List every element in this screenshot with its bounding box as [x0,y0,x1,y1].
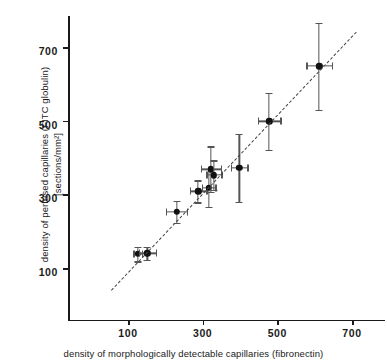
error-bar-cap [195,180,202,181]
error-bar-cap [247,164,248,171]
error-bar-cap [134,247,141,248]
x-tick-700 [352,320,354,325]
error-bar-cap [258,118,259,125]
error-bar-cap [231,164,232,171]
error-bar-cap [207,192,214,193]
error-bar-cap [166,209,167,216]
scatter-plot-figure: density of perfused capillaries (FITC gl… [0,0,387,361]
y-tick-label-500: 500 [0,121,58,139]
error-bar-cap [316,23,323,24]
error-bar-cap [332,63,333,70]
error-bar-cap [144,260,151,261]
x-tick-500 [277,320,279,325]
error-bar-cap [236,202,243,203]
error-bar-cap [280,118,281,125]
error-bar-cap [195,202,202,203]
y-tick-300 [63,194,68,196]
error-bar-cap [266,93,273,94]
y-tick-500 [63,121,68,123]
x-tick-label-100: 100 [118,327,137,339]
error-bar-cap [139,250,140,257]
x-tick-label-300: 300 [193,327,212,339]
y-tick-700 [63,47,68,49]
error-bar-cap [266,150,273,151]
error-bar-cap [206,172,207,179]
error-bar-cap [207,146,214,147]
regression-line-segment [111,32,357,291]
y-tick-label-300: 300 [0,194,58,212]
x-tick-label-700: 700 [342,327,361,339]
data-marker [236,165,242,171]
x-tick-300 [203,320,205,325]
error-bar-cap [202,184,203,191]
x-tick-100 [128,320,130,325]
error-bar-cap [210,160,217,161]
error-bar-cap [156,250,157,257]
error-bar-cap [190,188,191,195]
y-tick-label-700: 700 [0,47,58,65]
y-axis-line [68,16,70,321]
error-bar-cap [210,190,217,191]
data-marker [195,188,201,194]
y-tick-label-100: 100 [0,268,58,286]
y-tick-100 [63,268,68,270]
data-marker [173,209,179,215]
x-tick-label-500: 500 [268,327,287,339]
error-bar-cap [173,201,180,202]
error-bar-cap [316,110,323,111]
error-bar-cap [205,207,212,208]
error-bar-cap [236,134,243,135]
error-bar-cap [306,63,307,70]
x-axis-line [68,320,385,322]
x-axis-label: density of morphologically detectable ca… [0,348,387,359]
error-bar-cap [201,166,202,173]
